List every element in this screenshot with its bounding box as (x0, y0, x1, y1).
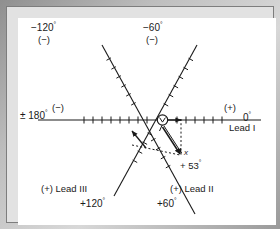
label-180-sign: (−) (52, 103, 64, 113)
label-plus-60-degrees: +60° (157, 198, 177, 210)
center-node-circle (157, 115, 167, 125)
label-plus-120-degrees: +120° (80, 198, 105, 210)
label-0-sign: (+) (224, 103, 236, 113)
diagram-canvas: −120° (−) −60° (−) ± 180° (−) (+) 0° Lea… (18, 18, 276, 225)
degree-symbol-icon: ° (54, 21, 57, 28)
label-180-value: ± 180 (20, 110, 45, 121)
label-minus-60-degrees: −60° (143, 22, 163, 34)
axis-lead-I (38, 117, 261, 124)
label-plus-minus-180-degrees: ± 180° (20, 110, 48, 122)
degree-symbol-icon: ° (103, 197, 106, 204)
frame-inner-border: −120° (−) −60° (−) ± 180° (−) (+) 0° Lea… (6, 6, 274, 223)
degree-symbol-icon: ° (199, 159, 202, 166)
degree-symbol-icon: ° (174, 197, 177, 204)
image-frame: −120° (−) −60° (−) ± 180° (−) (+) 0° Lea… (0, 0, 280, 229)
degree-symbol-icon: ° (249, 111, 252, 118)
label-minus-120-sign: (−) (38, 35, 50, 45)
label-minus-60-sign: (−) (146, 35, 158, 45)
label-mean-axis-value: + 53 (180, 160, 199, 171)
label-lead-II: (+) Lead II (170, 184, 214, 194)
degree-symbol-icon: ° (45, 109, 48, 116)
label-lead-I: Lead I (229, 123, 255, 133)
label-lead-III: (+) Lead III (41, 184, 87, 194)
label-plus-60-value: +60 (157, 198, 174, 209)
label-mean-axis-53-degrees: + 53° (180, 160, 201, 171)
label-minus-120-value: −120 (31, 22, 54, 33)
label-plus-120-value: +120 (80, 198, 103, 209)
label-minus-60-value: −60 (143, 22, 160, 33)
label-minus-120-degrees: −120° (31, 22, 56, 34)
degree-symbol-icon: ° (160, 21, 163, 28)
label-vector-point-x: x (184, 149, 188, 157)
